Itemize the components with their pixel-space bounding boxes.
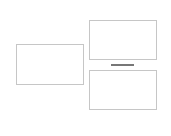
top-right-panel (89, 20, 157, 60)
split-divider-handle[interactable] (111, 64, 134, 66)
bottom-right-panel (89, 70, 157, 110)
left-panel (16, 44, 84, 85)
